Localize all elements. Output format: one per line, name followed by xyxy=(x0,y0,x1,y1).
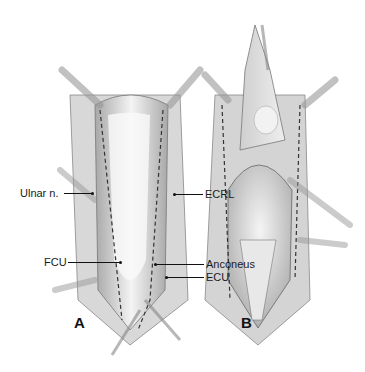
label-ulnar-nerve: Ulnar n. xyxy=(20,187,59,199)
leader-fcu xyxy=(68,262,120,263)
leader-dot-ulnar-nerve xyxy=(91,192,94,195)
leader-dot-ecu xyxy=(165,276,168,279)
leader-ecu xyxy=(167,277,204,278)
leader-ecrl xyxy=(175,194,203,195)
panel-label-b: B xyxy=(241,314,252,331)
label-ecrl: ECRL xyxy=(205,188,234,200)
leader-dot-anconeus xyxy=(154,263,157,266)
panel-b-illustration xyxy=(205,25,350,345)
panel-a-illustration xyxy=(55,70,200,355)
panel-label-a: A xyxy=(74,314,85,331)
label-ecu: ECU xyxy=(206,271,229,283)
label-fcu: FCU xyxy=(44,256,67,268)
leader-dot-ecrl xyxy=(173,193,176,196)
label-anconeus: Anconeus xyxy=(206,258,255,270)
leader-dot-fcu xyxy=(119,261,122,264)
leader-anconeus xyxy=(156,264,204,265)
surgical-illustration xyxy=(0,0,365,372)
leader-ulnar-nerve xyxy=(64,193,92,194)
